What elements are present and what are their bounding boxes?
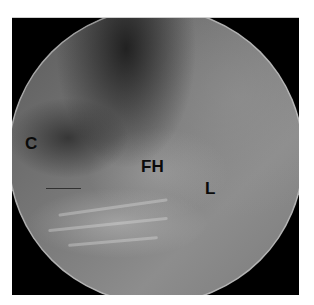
instrument-line [46,188,81,189]
arthroscopic-field [12,17,299,295]
tissue-streak [68,236,158,247]
label-fh: FH [141,158,164,175]
label-c: C [25,135,37,152]
image-frame [12,17,299,295]
tissue-streak [58,198,167,216]
label-l: L [205,180,215,197]
tissue-streak [48,217,168,233]
